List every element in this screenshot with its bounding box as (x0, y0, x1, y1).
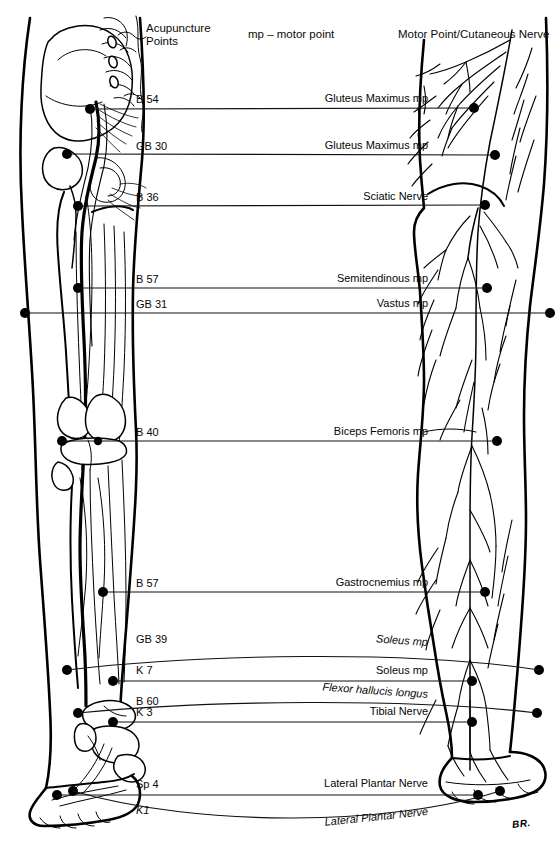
gluteal-nerve-branches (408, 40, 536, 200)
leader-row-0 (90, 108, 474, 109)
motorpoint-label-vastus: Vastus mp (188, 297, 428, 309)
motorpoint-label-biceps-femoris: Biceps Femoris mp (188, 425, 428, 437)
artist-signature: BR. (511, 817, 531, 830)
acupoint-label-gb31: GB 31 (136, 298, 167, 310)
calf-nerve-branches (416, 446, 512, 668)
motorpoint-label-gastrocnemius: Gastrocnemius mp (188, 576, 428, 588)
acupoint-label-gb30: GB 30 (136, 140, 167, 152)
acupoint-label-b36: B 36 (136, 191, 159, 203)
leader-row-1 (67, 154, 495, 155)
acupoint-label-b57-thigh: B 57 (136, 273, 159, 285)
acupoint-label-b57-calf: B 57 (136, 577, 159, 589)
foot-nerve-branches (420, 660, 508, 782)
acupoint-label-b40: B 40 (136, 426, 159, 438)
thigh-nerve-branches (418, 208, 518, 454)
motorpoint-label-gluteus-maximus-2: Gluteus Maximus mp (188, 139, 428, 151)
right-figure-nerve-leg (408, 18, 555, 804)
acupoint-label-k3: K 3 (136, 706, 153, 718)
motorpoint-label-sciatic-nerve: Sciatic Nerve (188, 190, 428, 202)
acupoint-label-k1: K1 (136, 804, 149, 816)
motorpoint-label-lateral-plantar-1: Lateral Plantar Nerve (188, 777, 428, 789)
motorpoint-label-gluteus-maximus-1: Gluteus Maximus mp (188, 92, 428, 104)
acupoint-label-sp4: Sp 4 (136, 778, 159, 790)
header-acupuncture-points: Acupuncture Points (146, 22, 211, 48)
motorpoint-label-tibial-nerve: Tibial Nerve (188, 705, 428, 717)
acupoint-label-k7: K 7 (136, 664, 153, 676)
header-motor-point-cutaneous-nerve: Motor Point/Cutaneous Nerve (398, 28, 550, 41)
motorpoint-label-semitendinous: Semitendinous mp (188, 272, 428, 284)
left-figure-acupuncture-leg (20, 16, 146, 828)
header-motor-point-legend: mp – motor point (248, 28, 334, 41)
acupoint-label-gb39: GB 39 (136, 633, 167, 645)
acupoint-label-b54: B 54 (136, 93, 159, 105)
diagram-sheet: .out{fill:none;stroke:#000;stroke-width:… (0, 0, 558, 843)
